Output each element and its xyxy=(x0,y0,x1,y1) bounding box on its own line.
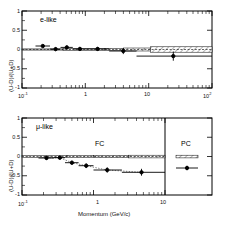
figure-root: (U-D)/(U+D) 1 0.5 0 -0.5 -1 e-like 10-1 … xyxy=(0,0,227,228)
mc-band-bottom xyxy=(22,155,165,158)
panel-e-like: (U-D)/(U+D) 1 0.5 0 -0.5 -1 e-like 10-1 … xyxy=(0,0,227,110)
pc-band xyxy=(176,155,198,158)
panel-mu-like: (U-D)/(U+D) 1 0.5 0 -0.5 -1 μ-like FC PC… xyxy=(0,110,227,228)
plot-svg-bottom xyxy=(0,110,227,228)
pc-data-point xyxy=(176,166,198,171)
plot-svg-top xyxy=(0,0,227,110)
data-series-bottom xyxy=(39,156,166,176)
